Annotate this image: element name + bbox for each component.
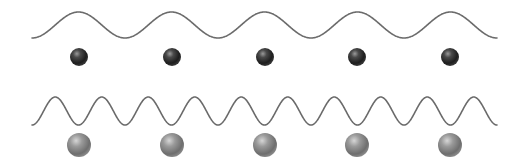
dark-sphere (348, 48, 366, 66)
light-sphere (438, 133, 462, 157)
high-frequency-wave (32, 97, 497, 125)
high-frequency-row (32, 97, 497, 157)
dark-sphere-group (70, 48, 459, 66)
dark-sphere (163, 48, 181, 66)
light-sphere (67, 133, 91, 157)
dark-sphere (70, 48, 88, 66)
wave-sphere-diagram (0, 0, 521, 168)
low-frequency-row (32, 12, 497, 66)
dark-sphere (441, 48, 459, 66)
light-sphere (160, 133, 184, 157)
light-sphere (345, 133, 369, 157)
light-sphere (253, 133, 277, 157)
dark-sphere (256, 48, 274, 66)
light-sphere-group (67, 133, 462, 157)
low-frequency-wave (32, 12, 497, 38)
